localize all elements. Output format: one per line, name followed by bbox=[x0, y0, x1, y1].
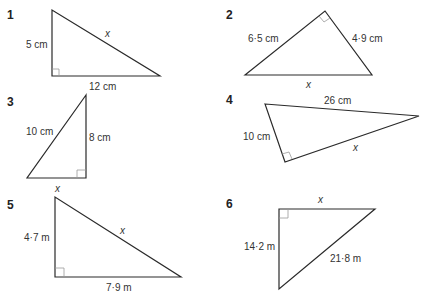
triangle bbox=[279, 209, 375, 289]
problem-4: 4 26 cm 10 cm x bbox=[226, 93, 419, 162]
side-label-hypotenuse: x bbox=[104, 28, 111, 39]
side-label-bottom: 7·9 m bbox=[106, 282, 132, 293]
problem-number: 6 bbox=[226, 197, 233, 211]
side-label-left: 4·7 m bbox=[24, 232, 50, 243]
side-label-hypotenuse: 21·8 m bbox=[330, 253, 361, 264]
problem-number: 5 bbox=[7, 198, 14, 212]
problem-number: 1 bbox=[7, 8, 14, 22]
problem-number: 2 bbox=[226, 8, 233, 22]
side-label-bottom: 12 cm bbox=[89, 81, 116, 92]
problem-6: 6 x 14·2 m 21·8 m bbox=[226, 194, 375, 289]
side-label-hypotenuse: x bbox=[119, 225, 126, 236]
triangle bbox=[265, 104, 419, 162]
problem-3: 3 10 cm 8 cm x bbox=[7, 95, 111, 194]
right-triangle-worksheet: 1 5 cm x 12 cm 2 6·5 cm 4·9 cm x 3 10 cm… bbox=[0, 0, 424, 295]
side-label-left: 14·2 m bbox=[244, 241, 275, 252]
right-angle-marker bbox=[319, 16, 330, 22]
side-label-top: x bbox=[317, 194, 324, 205]
side-label-bottom: x bbox=[352, 142, 359, 153]
side-label-bottom: x bbox=[54, 183, 61, 194]
triangle bbox=[55, 197, 181, 277]
right-angle-marker bbox=[77, 170, 86, 178]
problem-number: 4 bbox=[226, 93, 233, 107]
problem-1: 1 5 cm x 12 cm bbox=[7, 8, 160, 92]
triangle bbox=[52, 10, 160, 76]
problem-number: 3 bbox=[7, 95, 14, 109]
side-label-top: 26 cm bbox=[324, 95, 351, 106]
right-angle-marker bbox=[52, 69, 59, 76]
side-label-bottom: x bbox=[305, 79, 312, 90]
side-label-right: 8 cm bbox=[89, 132, 111, 143]
side-label-left: 5 cm bbox=[26, 39, 48, 50]
right-angle-marker bbox=[279, 209, 288, 218]
side-label-hypotenuse: 10 cm bbox=[26, 126, 53, 137]
side-label-left: 6·5 cm bbox=[248, 33, 279, 44]
problem-5: 5 4·7 m x 7·9 m bbox=[7, 197, 181, 293]
side-label-left: 10 cm bbox=[243, 131, 270, 142]
right-angle-marker bbox=[55, 268, 64, 277]
problem-2: 2 6·5 cm 4·9 cm x bbox=[226, 8, 383, 90]
side-label-right: 4·9 cm bbox=[352, 33, 383, 44]
